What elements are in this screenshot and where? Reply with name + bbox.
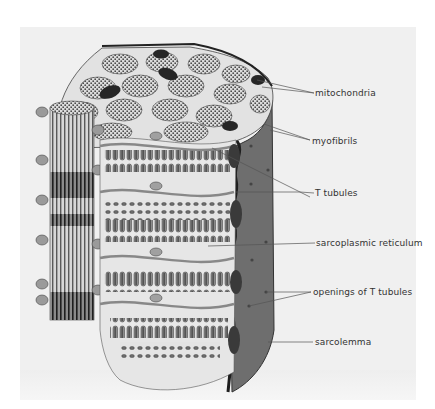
muscle-fiber-diagram [0,0,435,409]
label-t-tubules: T tubules [315,188,358,198]
label-sarcolemma: sarcolemma [315,337,371,347]
label-openings-of-t-tubules: openings of T tubules [313,287,412,297]
label-sarcoplasmic-reticulum: sarcoplasmic reticulum [316,238,423,248]
label-myofibrils: myofibrils [312,136,357,146]
label-mitochondria: mitochondria [315,88,376,98]
myofibril-cylinder [50,101,94,320]
sarcoplasmic-reticulum-body [100,132,242,390]
